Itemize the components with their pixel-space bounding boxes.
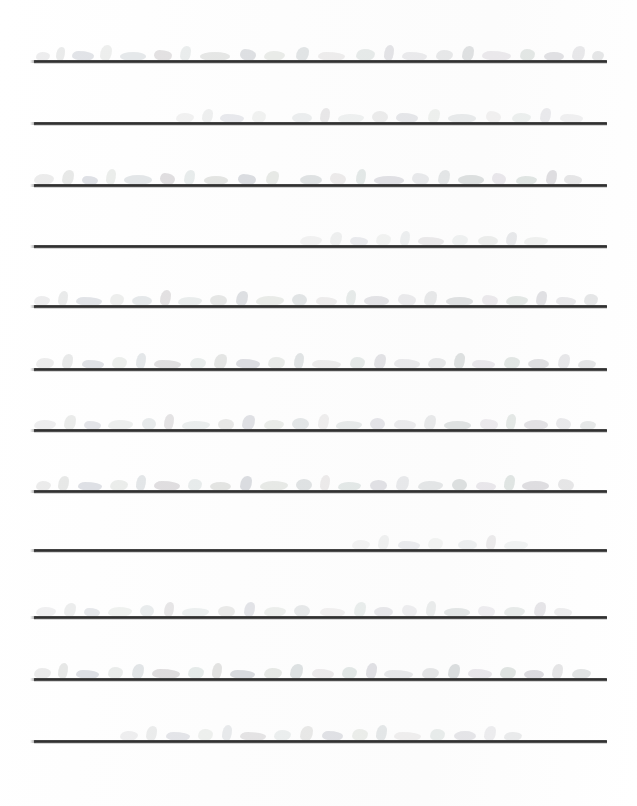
ink-stroke: [346, 290, 356, 306]
ink-stroke: [146, 726, 157, 741]
handwriting-line: [0, 220, 637, 246]
ink-stroke: [164, 414, 174, 430]
handwriting-line: [0, 524, 637, 550]
ink-stroke: [378, 535, 389, 550]
ink-stroke: [222, 725, 232, 741]
ink-stroke: [62, 354, 73, 369]
handwriting-line: [0, 159, 637, 185]
handwriting-line: [0, 591, 637, 617]
ink-stroke: [212, 663, 222, 679]
ink-stroke: [486, 535, 496, 550]
ink-stroke: [242, 415, 255, 430]
ruled-line: [34, 368, 607, 371]
ink-stroke: [376, 725, 387, 741]
ink-stroke: [572, 46, 585, 61]
ruled-line: [34, 245, 607, 248]
handwriting-line: [0, 343, 637, 369]
ink-stroke: [448, 664, 460, 679]
ink-stroke: [132, 664, 144, 679]
ink-stroke: [202, 109, 213, 123]
ink-stroke: [354, 602, 366, 617]
ink-stroke: [58, 476, 69, 491]
ink-stroke: [356, 169, 366, 185]
ink-stroke: [64, 603, 76, 617]
ink-stroke: [100, 45, 112, 61]
ink-stroke: [136, 475, 146, 491]
ink-stroke: [366, 663, 377, 679]
handwriting-line: [0, 404, 637, 430]
ink-stroke: [506, 232, 517, 246]
ink-stroke: [64, 415, 76, 430]
ink-stroke: [106, 169, 116, 185]
ink-stroke: [438, 170, 450, 185]
paper-texture: [0, 0, 637, 806]
ruled-line: [34, 490, 607, 493]
ruled-line: [34, 60, 607, 63]
ink-stroke: [184, 170, 195, 185]
ruled-line: [34, 616, 607, 619]
ink-stroke: [62, 170, 74, 185]
ruled-line: [34, 305, 607, 308]
ink-stroke: [56, 47, 65, 61]
handwriting-line: [0, 35, 637, 61]
handwriting-line: [0, 97, 637, 123]
ruled-line: [34, 549, 607, 552]
ink-stroke: [454, 353, 465, 369]
handwriting-line: [0, 653, 637, 679]
ink-stroke: [300, 726, 313, 741]
ruled-line: [34, 429, 607, 432]
ink-stroke: [244, 602, 255, 617]
ink-stroke: [506, 414, 516, 430]
ink-stroke: [552, 664, 563, 679]
ruled-line: [34, 740, 607, 743]
ink-stroke: [164, 602, 174, 617]
scanned-page: Handwriting is too faint and washed out …: [0, 0, 637, 806]
ink-stroke: [240, 476, 252, 491]
handwriting-line: [0, 280, 637, 306]
ink-stroke: [504, 475, 515, 491]
ink-stroke: [180, 46, 191, 61]
ink-stroke: [400, 231, 410, 246]
ink-stroke: [160, 290, 171, 306]
ink-stroke: [320, 475, 330, 491]
ink-stroke: [558, 354, 570, 369]
ink-stroke: [330, 232, 342, 246]
ink-stroke: [424, 415, 436, 430]
ink-stroke: [396, 476, 409, 491]
ink-stroke: [424, 291, 437, 306]
ink-stroke: [546, 170, 557, 185]
ink-stroke: [426, 601, 436, 617]
ink-stroke: [214, 354, 227, 369]
ink-stroke: [534, 602, 546, 617]
ink-stroke: [462, 46, 474, 61]
ink-stroke: [318, 414, 329, 430]
ink-stroke: [320, 108, 330, 123]
ink-stroke: [236, 291, 248, 306]
ruled-line: [34, 678, 607, 681]
ink-stroke: [384, 45, 394, 61]
ink-stroke: [374, 354, 386, 369]
ruled-line: [34, 122, 607, 125]
ink-stroke: [428, 109, 440, 123]
ink-stroke: [58, 663, 68, 679]
ink-stroke: [58, 291, 68, 306]
ink-stroke: [290, 664, 303, 679]
ink-stroke: [536, 291, 547, 306]
handwriting-line: [0, 715, 637, 741]
ink-stroke: [540, 108, 551, 123]
ink-stroke: [484, 726, 496, 741]
ink-stroke: [266, 171, 279, 185]
ink-stroke: [296, 47, 309, 61]
ink-stroke: [136, 353, 146, 369]
handwriting-line: [0, 465, 637, 491]
ruled-line: [34, 184, 607, 187]
ink-stroke: [294, 353, 304, 369]
